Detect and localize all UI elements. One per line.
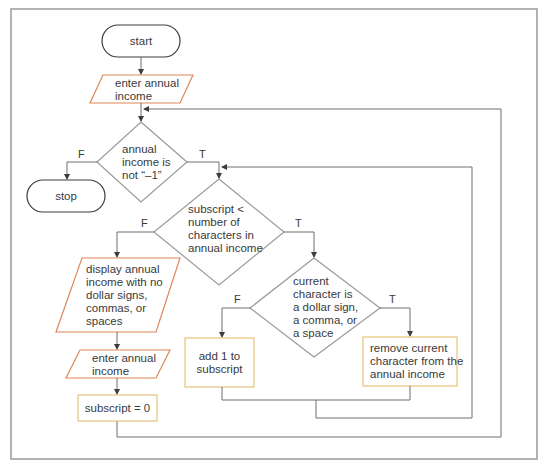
svg-text:remove current: remove current [370,342,448,354]
svg-text:enter annual: enter annual [115,77,179,89]
connector-decision3-false [222,308,250,337]
start-label: start [130,35,153,47]
svg-text:character from the: character from the [370,355,463,367]
svg-text:a dollar sign,: a dollar sign, [293,301,358,313]
svg-text:character is: character is [293,288,353,300]
decision-annual-income-not-minus-one: annual income is not “–1” [97,122,187,202]
false-label: F [78,148,85,160]
connector-decision1-true [187,162,219,178]
svg-text:number of: number of [188,216,241,228]
svg-text:income: income [92,365,129,377]
input-enter-annual-income-2: enter annual income [66,350,170,378]
svg-text:a comma, or: a comma, or [293,314,357,326]
false-label: F [141,217,148,229]
false-label: F [234,293,241,305]
svg-text:characters in: characters in [188,229,254,241]
process-add-one-to-subscript: add 1 to subscript [185,338,254,387]
true-label: T [295,217,302,229]
start-terminator: start [102,25,180,57]
svg-text:display annual: display annual [86,263,160,275]
process-remove-current-character: remove current character from the annual… [363,337,463,386]
svg-text:subscript: subscript [196,363,243,375]
svg-text:commas, or: commas, or [86,302,146,314]
svg-text:annual income: annual income [188,242,263,254]
input-enter-annual-income: enter annual income [90,75,193,103]
connector-decision2-true [284,232,314,257]
connector-decision1-false [67,162,97,179]
stop-terminator: stop [27,180,105,212]
svg-text:subscript = 0: subscript = 0 [85,402,151,414]
svg-text:income: income [115,90,152,102]
svg-text:add 1 to: add 1 to [199,350,241,362]
stop-label: stop [55,190,77,202]
svg-text:dollar signs,: dollar signs, [86,289,147,301]
svg-text:income is: income is [122,156,171,168]
svg-text:enter annual: enter annual [92,352,156,364]
svg-text:annual income: annual income [370,368,445,380]
svg-text:not “–1”: not “–1” [122,169,162,181]
svg-text:subscript <: subscript < [188,203,244,215]
process-subscript-reset: subscript = 0 [78,395,157,421]
svg-text:spaces: spaces [86,315,123,327]
svg-text:a space: a space [293,327,333,339]
connector-merge [222,386,410,400]
flowchart: start enter annual income annual income … [0,0,547,471]
svg-text:current: current [293,275,330,287]
decision-current-character-is-separator: current character is a dollar sign, a co… [250,258,380,357]
true-label: T [389,293,396,305]
connector-decision3-true [380,308,410,336]
svg-text:income with no: income with no [86,276,163,288]
connector-decision2-false [117,232,154,257]
output-display-annual-income: display annual income with no dollar sig… [56,258,180,332]
true-label: T [199,148,206,160]
svg-text:annual: annual [122,143,157,155]
